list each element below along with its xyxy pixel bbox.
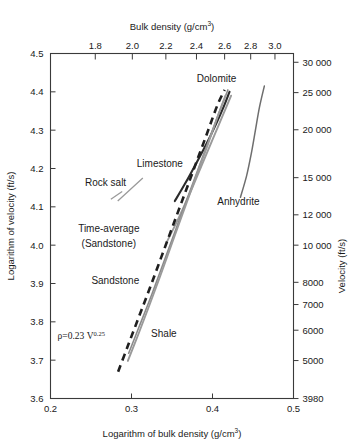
left-axis-tick-label: 4.4 — [30, 86, 43, 97]
left-axis-tick-label: 3.8 — [30, 316, 43, 327]
annotation-limestone: Limestone — [137, 158, 184, 169]
bottom-axis-title: Logarithm of bulk density (g/cm3) — [103, 427, 242, 439]
left-axis-tick-label: 3.6 — [30, 393, 43, 404]
left-axis-tick-label: 3.7 — [30, 355, 43, 366]
annotation-gardner-equation: ρ=0.23 V0.25 — [58, 330, 105, 341]
right-axis-tick-label: 6000 — [303, 325, 324, 336]
right-axis-title: Velocity (ft/s) — [336, 239, 347, 293]
series-curve-anhydrite — [240, 86, 264, 197]
bottom-axis-tick-label: 0.3 — [125, 403, 138, 414]
annotation-sandstone: Sandstone — [91, 275, 139, 286]
right-axis-tick-label: 8000 — [303, 277, 324, 288]
annotation-dolomite: Dolomite — [197, 73, 237, 84]
top-axis-tick-label: 2.6 — [218, 40, 231, 51]
bottom-axis-tick-label: 0.2 — [44, 403, 57, 414]
annotation-time-average-sandstone-2: (Sandstone) — [82, 238, 136, 249]
top-axis-tick-label: 2.2 — [159, 40, 172, 51]
top-axis-title: Bulk density (g/cm3) — [130, 20, 214, 32]
top-axis-tick-label: 1.8 — [89, 40, 102, 51]
left-axis-tick-label: 4.1 — [30, 201, 43, 212]
left-axis-tick-label: 4.3 — [30, 125, 43, 136]
right-axis-tick-label: 25 000 — [303, 87, 332, 98]
velocity-density-chart: 3.63.73.83.94.04.14.24.34.44.5Logarithm … — [0, 0, 357, 446]
bottom-axis-tick-label: 0.4 — [206, 403, 219, 414]
left-axis-tick-label: 4.5 — [30, 48, 43, 59]
series-curve-shale — [128, 96, 226, 361]
bottom-axis-tick-label: 0.5 — [287, 403, 300, 414]
top-axis-tick-label: 3.0 — [268, 40, 281, 51]
left-axis-tick-label: 4.2 — [30, 163, 43, 174]
left-axis-tick-label: 4.0 — [30, 240, 43, 251]
left-axis-tick-label: 3.9 — [30, 278, 43, 289]
annotation-time-average-sandstone-1: Time-average — [78, 223, 140, 234]
right-axis-tick-label: 30 000 — [303, 57, 332, 68]
right-axis-tick-label: 20 000 — [303, 124, 332, 135]
annotation-shale: Shale — [151, 328, 177, 339]
top-axis-tick-label: 2.4 — [190, 40, 203, 51]
annotation-rock-salt: Rock salt — [85, 177, 126, 188]
right-axis-tick-label: 12 000 — [303, 209, 332, 220]
top-axis-tick-label: 2.0 — [126, 40, 139, 51]
top-axis-tick-label: 2.8 — [244, 40, 257, 51]
chart-figure: 3.63.73.83.94.04.14.24.34.44.5Logarithm … — [0, 0, 357, 446]
right-axis-tick-label: 5000 — [303, 355, 324, 366]
right-axis-tick-label: 3980 — [303, 393, 324, 404]
left-axis-title: Logarithm of velocity (ft/s) — [5, 172, 16, 281]
right-axis-tick-label: 10 000 — [303, 240, 332, 251]
annotation-anhydrite: Anhydrite — [217, 196, 260, 207]
right-axis-tick-label: 15 000 — [303, 172, 332, 183]
right-axis-tick-label: 7000 — [303, 299, 324, 310]
